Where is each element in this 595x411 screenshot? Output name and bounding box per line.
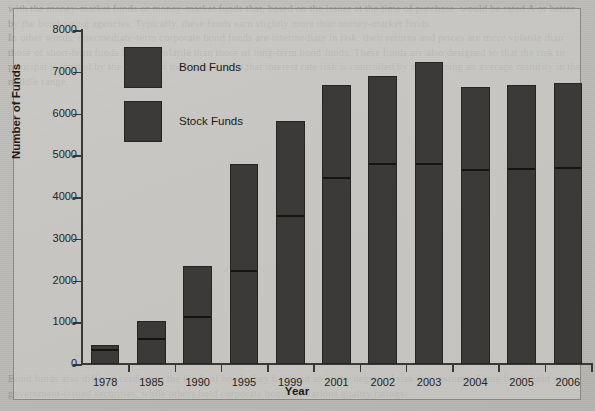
bar-1999	[276, 121, 305, 364]
bar-segment-divider	[231, 270, 258, 272]
legend-swatch	[124, 101, 162, 142]
x-tick-mark	[360, 364, 362, 372]
bar-2005	[507, 85, 536, 364]
x-tick-mark	[406, 364, 408, 372]
bar-2003	[415, 62, 444, 364]
y-tick-label: 7000	[53, 65, 77, 77]
bar-2006	[554, 83, 583, 364]
bar-segment-divider	[323, 177, 350, 179]
bar-2001	[322, 85, 351, 364]
bar-segment-divider	[462, 169, 489, 171]
x-tick-mark	[221, 364, 223, 372]
y-tick-label: 4000	[53, 190, 77, 202]
bar-segment-divider	[277, 215, 304, 217]
y-tick-label: 6000	[53, 107, 77, 119]
legend-label: Stock Funds	[179, 115, 243, 127]
legend-swatch	[124, 47, 162, 88]
bar-1990	[183, 266, 212, 364]
bar-segment-divider	[92, 349, 119, 351]
y-tick-label: 0	[71, 357, 77, 369]
scanned-page: with the money-market funds or money-mar…	[0, 0, 595, 411]
bar-segment-divider	[508, 168, 535, 170]
x-tick-mark	[498, 364, 500, 372]
x-tick-mark	[545, 364, 547, 372]
bar-segment-divider	[555, 167, 582, 169]
y-axis-title: Number of Funds	[10, 64, 22, 159]
y-tick-label: 1000	[53, 315, 77, 327]
bar-segment-divider	[184, 316, 211, 318]
bar-segment-divider	[138, 338, 165, 340]
bar-segment-divider	[416, 163, 443, 165]
bar-1985	[137, 321, 166, 364]
x-tick-mark	[591, 364, 593, 372]
plot-wrapper: 010002000300040005000600070008000 197819…	[14, 9, 580, 399]
y-tick-label: 2000	[53, 274, 77, 286]
legend-label: Bond Funds	[179, 61, 241, 73]
x-tick-mark	[128, 364, 130, 372]
y-tick-label: 5000	[53, 148, 77, 160]
x-tick-mark	[452, 364, 454, 372]
bar-2002	[368, 76, 397, 364]
x-axis-title: Year	[14, 385, 580, 397]
x-tick-mark	[175, 364, 177, 372]
bar-2004	[461, 87, 490, 364]
bar-1995	[230, 164, 259, 364]
y-tick-label: 8000	[53, 23, 77, 35]
x-tick-mark	[267, 364, 269, 372]
bar-segment-divider	[369, 163, 396, 165]
chart-figure: 010002000300040005000600070008000 197819…	[13, 8, 581, 400]
bar-1978	[91, 345, 120, 364]
y-tick-label: 3000	[53, 232, 77, 244]
x-tick-mark	[313, 364, 315, 372]
